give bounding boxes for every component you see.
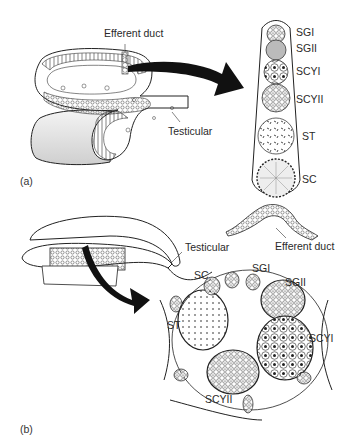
label-sc-b: SC	[194, 270, 209, 281]
label-testicular-b: Testicular	[185, 242, 229, 253]
panel-b-testis	[22, 216, 182, 286]
panel-label-b: (b)	[20, 424, 33, 435]
label-efferent-duct-a: Efferent duct	[104, 28, 163, 39]
label-scyi-b: SCYI	[309, 333, 334, 344]
label-efferent-duct-bottom: Efferent duct	[275, 241, 334, 252]
label-sc-a: SC	[302, 174, 317, 185]
label-st-a: ST	[302, 131, 315, 142]
cyst-column	[252, 21, 300, 198]
label-sgi-b: SGI	[252, 263, 270, 274]
label-testicular-a: Testicular	[168, 126, 212, 137]
testis-structure-diagram: Efferent duct Testicular (a) SGI SGII SC…	[0, 0, 348, 446]
panel-label-a: (a)	[20, 176, 33, 187]
label-scyi-a: SCYI	[296, 66, 321, 77]
label-scyii-b: SCYII	[205, 394, 232, 405]
label-sgi-a: SGI	[296, 27, 314, 38]
label-sgii-a: SGII	[296, 43, 317, 54]
efferent-duct-shape	[226, 205, 318, 240]
label-st-b: ST	[167, 320, 180, 331]
label-scyii-a: SCYII	[296, 94, 323, 105]
cross-section	[160, 268, 332, 420]
label-sgii-b: SGII	[285, 277, 306, 288]
